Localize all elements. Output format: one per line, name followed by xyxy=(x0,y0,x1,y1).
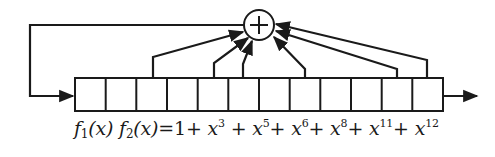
shift-register xyxy=(75,78,443,111)
term-exponent: 3 xyxy=(218,117,225,130)
f1-arg: (x) xyxy=(88,117,113,139)
equals-sign: = xyxy=(158,117,174,139)
tap-12 xyxy=(276,24,427,78)
f2-symbol: f xyxy=(119,117,126,139)
constant-term: 1 xyxy=(174,117,186,139)
term-base: x xyxy=(252,117,263,139)
f2-arg: (x) xyxy=(133,117,158,139)
xor-gate-icon xyxy=(244,10,274,40)
tap-8 xyxy=(274,37,305,78)
term-exponent: 11 xyxy=(380,117,394,130)
plus-sign: + xyxy=(270,117,286,139)
polynomial-formula: f1(x) f2(x)=1+ x3 + x5+ x6+ x8+ x11+ x12 xyxy=(74,117,454,139)
term-base: x xyxy=(330,117,341,139)
tap-6 xyxy=(243,41,252,78)
term-exponent: 5 xyxy=(263,117,270,130)
term-exponent: 12 xyxy=(425,117,439,130)
term-exponent: 6 xyxy=(302,117,309,130)
term-base: x xyxy=(369,117,380,139)
f1-symbol: f xyxy=(74,117,81,139)
plus-sign: + xyxy=(186,117,202,139)
plus-sign: + xyxy=(347,117,363,139)
term-base: x xyxy=(208,117,219,139)
tap-lines xyxy=(153,24,427,78)
plus-sign: + xyxy=(393,117,409,139)
plus-sign: + xyxy=(309,117,325,139)
term-base: x xyxy=(291,117,302,139)
plus-sign: + xyxy=(231,117,247,139)
tap-3 xyxy=(153,32,243,78)
term-base: x xyxy=(415,117,426,139)
